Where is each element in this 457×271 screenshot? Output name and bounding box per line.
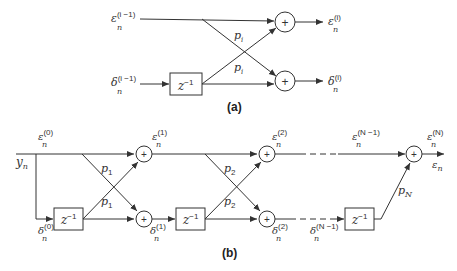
- coef-label-2-lower: p2: [224, 195, 236, 210]
- input-delta-sub: n: [117, 87, 122, 96]
- input-delta-label: δ(i −1): [111, 74, 136, 89]
- coef-label-upper: pi: [234, 29, 243, 44]
- eps1-sub: n: [156, 140, 161, 149]
- coef-label-N: pN: [398, 184, 413, 199]
- forward-path-line: [140, 19, 274, 21]
- input-eps-label: ε(i −1): [111, 10, 136, 25]
- coef-label-1-upper: p1: [101, 162, 113, 177]
- sum-symbol: +: [141, 214, 147, 225]
- caption-a: (a): [227, 100, 242, 114]
- coef-label-1-lower: p1: [101, 195, 113, 210]
- sum-symbol: +: [281, 75, 288, 89]
- stage-diagram-a: z−1 + + pi pi ε(i −1) n δ(i −1) n ε(i) n…: [111, 10, 342, 114]
- lattice-filter-diagram: z−1 + + pi pi ε(i −1) n δ(i −1) n ε(i) n…: [0, 0, 457, 271]
- delta2-sub: n: [276, 234, 281, 243]
- sum-symbol: +: [411, 149, 417, 160]
- epsN1-sub: n: [356, 140, 361, 149]
- cascade-diagram-b: yn ε(0) n δ(0) n z−1 + + p1 p1 ε(1) n δ(…: [15, 128, 444, 260]
- sum-symbol: +: [281, 16, 288, 30]
- delta0-sub: n: [42, 234, 47, 243]
- coef-label-2-upper: p2: [224, 162, 236, 177]
- epsN-sub: n: [431, 140, 436, 149]
- delta1-sub: n: [154, 234, 159, 243]
- caption-b: (b): [222, 246, 237, 260]
- deltaN1-sub: n: [314, 234, 319, 243]
- input-y-label: yn: [15, 155, 28, 171]
- output-eps-sub: n: [333, 25, 338, 34]
- eps2-sub: n: [276, 140, 281, 149]
- sum-symbol: +: [141, 149, 147, 160]
- output-delta-sub: n: [333, 85, 338, 94]
- output-eps-label: εn: [432, 159, 443, 173]
- sum-symbol: +: [264, 214, 270, 225]
- coef-label-lower: pi: [234, 61, 243, 76]
- split-line: [36, 154, 53, 219]
- eps0-sub: n: [42, 140, 47, 149]
- input-eps-sub: n: [117, 23, 122, 32]
- sum-symbol: +: [264, 149, 270, 160]
